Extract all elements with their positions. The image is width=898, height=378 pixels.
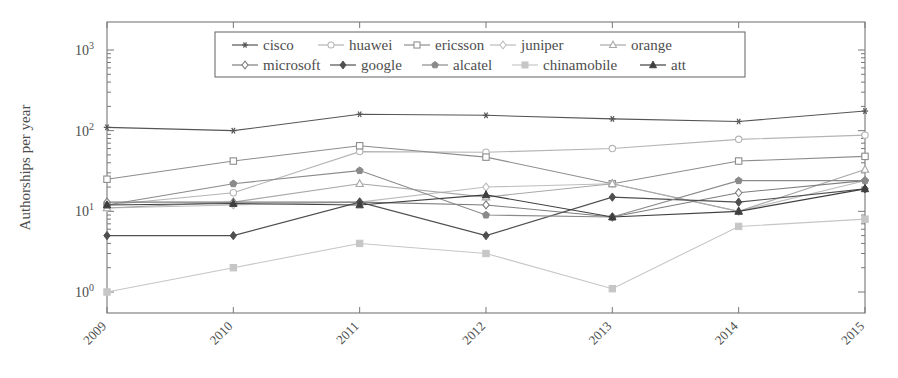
data-point-marker <box>356 180 363 187</box>
legend-label-google: google <box>361 57 402 73</box>
data-point-marker <box>414 42 420 48</box>
data-point-marker <box>356 240 362 246</box>
y-tick-label: 100 <box>75 282 94 300</box>
data-point-marker <box>356 111 362 117</box>
legend-label-huawei: huawei <box>349 37 392 53</box>
x-tick-label: 2011 <box>333 319 362 348</box>
legend-label-microsoft: microsoft <box>263 57 321 73</box>
data-point-marker <box>862 153 868 159</box>
data-point-marker <box>482 191 489 198</box>
data-point-marker <box>609 116 615 122</box>
data-point-marker <box>230 180 237 187</box>
authorships-per-year-chart: 1001011021032009201020112012201320142015… <box>0 0 898 378</box>
legend-label-chinamobile: chinamobile <box>543 57 617 73</box>
data-point-marker <box>483 211 490 218</box>
y-tick-label: 101 <box>75 201 94 219</box>
data-point-marker <box>862 177 869 184</box>
series-chinamobile <box>104 216 868 295</box>
y-axis-title: Authorships per year <box>17 105 33 231</box>
data-point-marker <box>104 289 110 295</box>
data-point-marker <box>735 158 741 164</box>
data-point-marker <box>862 216 868 222</box>
data-point-marker <box>104 176 110 182</box>
data-point-marker <box>735 198 741 206</box>
x-tick-label: 2010 <box>206 319 235 348</box>
data-point-marker <box>609 193 615 201</box>
data-point-marker <box>609 285 615 291</box>
data-point-marker <box>735 136 741 142</box>
series-cisco <box>104 108 868 133</box>
series-line-cisco <box>107 111 865 131</box>
data-point-marker <box>483 231 489 239</box>
data-point-marker <box>609 145 615 151</box>
data-point-marker <box>230 265 236 271</box>
x-tick-label: 2015 <box>838 319 867 348</box>
legend-label-juniper: juniper <box>520 37 564 53</box>
legend-label-ericsson: ericsson <box>435 37 485 53</box>
data-point-marker <box>483 250 489 256</box>
data-point-marker <box>230 158 236 164</box>
data-point-marker <box>230 128 236 134</box>
data-point-marker <box>104 231 110 239</box>
data-point-marker <box>735 223 741 229</box>
data-point-marker <box>230 190 236 196</box>
legend-label-att: att <box>671 57 687 73</box>
data-point-marker <box>735 177 742 184</box>
data-point-marker <box>356 143 362 149</box>
legend-label-orange: orange <box>631 37 672 53</box>
data-point-marker <box>230 231 236 239</box>
data-point-marker <box>862 132 868 138</box>
data-point-marker <box>735 119 741 125</box>
data-point-marker <box>483 113 489 119</box>
legend-label-cisco: cisco <box>263 37 294 53</box>
data-point-marker <box>356 167 363 174</box>
data-point-marker <box>735 189 741 197</box>
y-tick-label: 102 <box>75 121 94 139</box>
x-tick-label: 2013 <box>585 319 614 348</box>
data-point-marker <box>522 62 528 68</box>
data-point-marker <box>861 166 868 173</box>
x-tick-label: 2014 <box>712 318 741 347</box>
axis-labels: Authorships per year <box>17 105 33 231</box>
y-tick-label: 103 <box>75 40 94 58</box>
data-point-marker <box>483 154 489 160</box>
data-series-group <box>103 108 868 295</box>
data-point-marker <box>328 42 334 48</box>
x-tick-label: 2009 <box>80 319 109 348</box>
data-point-marker <box>483 201 489 209</box>
legend-label-alcatel: alcatel <box>453 57 492 73</box>
chart-legend: ciscohuaweiericssonjuniperorangemicrosof… <box>215 32 745 77</box>
x-tick-label: 2012 <box>459 319 488 348</box>
chart-canvas: 1001011021032009201020112012201320142015… <box>0 0 898 378</box>
